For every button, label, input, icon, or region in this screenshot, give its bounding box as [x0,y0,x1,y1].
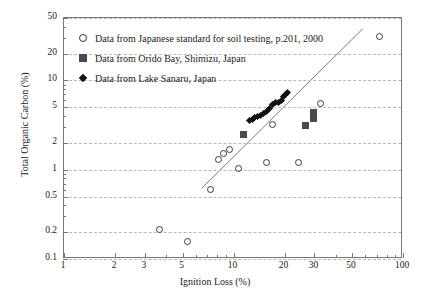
y-tick-label: 10 [17,73,57,83]
x-tick-major [115,253,116,258]
y-tick-label: 0.2 [17,225,57,235]
x-tick-label: 10 [213,260,253,270]
chart-figure: Total Organic Carbon (%) Data from Japan… [0,0,430,298]
data-point-open-circle [263,159,270,166]
y-tick-label: 0.1 [17,252,57,262]
x-tick-major [314,253,315,258]
legend-item-lake-sanaru: Data from Lake Sanaru, Japan [75,68,323,88]
x-tick-major [145,253,146,258]
data-point-open-circle [184,238,191,245]
y-tick-label: 20 [17,47,57,57]
y-tick-minor [63,38,66,39]
x-tick-minor [207,255,208,258]
x-tick-minor [166,255,167,258]
data-point-open-circle [215,156,222,163]
y-tick-major [63,18,68,19]
y-tick-label: 5 [17,100,57,110]
filled-square-icon [75,54,91,62]
y-tick-minor [63,184,66,185]
x-tick-minor [387,255,388,258]
y-tick-minor [63,89,66,90]
y-tick-minor [63,100,66,101]
x-tick-minor [336,255,337,258]
x-tick-label: 30 [293,260,333,270]
gridline-horizontal [64,107,401,108]
y-tick-major [63,54,68,55]
data-point-open-circle [156,226,163,233]
y-tick-label: 1 [17,163,57,173]
data-point-open-circle [295,159,302,166]
chart-legend: Data from Japanese standard for soil tes… [75,28,323,88]
gridline-horizontal [64,18,401,19]
legend-item-orido-bay: Data from Orido Bay, Shimizu, Japan [75,48,323,68]
x-tick-minor [226,255,227,258]
x-tick-minor [377,255,378,258]
data-point-open-circle [376,33,383,40]
x-tick-major [403,253,404,258]
y-tick-minor [63,205,66,206]
gridline-horizontal [64,232,401,233]
y-tick-minor [63,178,66,179]
x-tick-major [352,253,353,258]
y-tick-major [63,170,68,171]
x-tick-major [285,253,286,258]
y-tick-major [63,197,68,198]
data-point-filled-square [302,122,309,129]
y-tick-minor [63,127,66,128]
y-tick-label: 0.5 [17,190,57,200]
data-point-open-circle [317,100,324,107]
x-tick-label: 5 [162,260,202,270]
y-tick-label: 2 [17,136,57,146]
gridline-horizontal [64,170,401,171]
legend-label: Data from Orido Bay, Shimizu, Japan [95,53,246,64]
x-axis-title: Ignition Loss (%) [0,276,430,287]
gridline-horizontal [64,143,401,144]
y-tick-minor [63,216,66,217]
x-tick-label: 3 [124,260,164,270]
x-tick-major [234,253,235,258]
filled-diamond-icon [75,75,91,81]
x-tick-minor [196,255,197,258]
data-point-filled-square [310,109,317,122]
data-point-open-circle [226,146,233,153]
y-tick-minor [63,94,66,95]
gridline-horizontal [64,197,401,198]
y-tick-major [63,80,68,81]
data-point-open-circle [269,121,276,128]
x-tick-label: 50 [331,260,371,270]
x-tick-minor [365,255,366,258]
x-tick-label: 100 [382,260,422,270]
y-tick-label: 50 [17,11,57,21]
y-tick-minor [63,85,66,86]
y-tick-minor [63,27,66,28]
legend-item-soil-testing: Data from Japanese standard for soil tes… [75,28,323,48]
open-circle-icon [75,34,91,42]
data-point-open-circle [235,165,242,172]
legend-label: Data from Japanese standard for soil tes… [95,33,323,44]
y-tick-minor [63,190,66,191]
y-tick-major [63,232,68,233]
x-tick-minor [217,255,218,258]
y-tick-major [63,107,68,108]
legend-label: Data from Lake Sanaru, Japan [95,73,216,84]
data-point-open-circle [207,186,214,193]
y-tick-minor [63,116,66,117]
x-tick-major [64,253,65,258]
y-tick-major [63,143,68,144]
x-tick-minor [395,255,396,258]
y-tick-minor [63,174,66,175]
data-point-filled-square [240,131,247,138]
x-tick-major [183,253,184,258]
